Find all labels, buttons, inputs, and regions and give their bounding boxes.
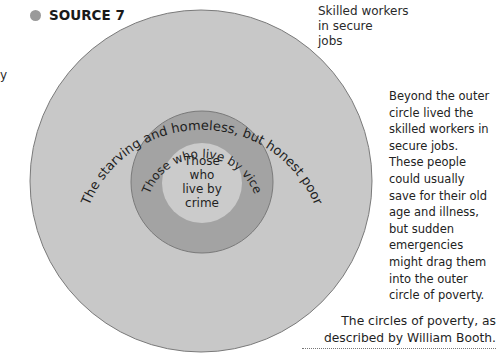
- skilled-label-line: in secure: [318, 19, 428, 34]
- description-line: emergencies: [389, 237, 499, 254]
- skilled-label-line: Skilled workers: [318, 4, 428, 19]
- description-paragraph: Beyond the outer circle lived the skille…: [389, 88, 499, 304]
- svg-text:who: who: [190, 168, 215, 182]
- description-line: secure jobs.: [389, 138, 499, 155]
- inner-circle-label: Those who live by crime: [182, 154, 222, 210]
- figure-caption: The circles of poverty, as described by …: [302, 313, 496, 349]
- description-line: age and illness,: [389, 204, 499, 221]
- description-line: These people: [389, 154, 499, 171]
- description-line: save for their old: [389, 188, 499, 205]
- description-line: circle lived the: [389, 105, 499, 122]
- description-line: skilled workers in: [389, 121, 499, 138]
- caption-line-2: described by William Booth.: [302, 330, 496, 349]
- svg-text:Those: Those: [183, 154, 220, 168]
- skilled-label-line: jobs: [318, 34, 428, 49]
- svg-text:live by: live by: [182, 182, 222, 196]
- description-line: could usually: [389, 171, 499, 188]
- description-line: but sudden: [389, 221, 499, 238]
- description-line: circle of poverty.: [389, 287, 499, 304]
- description-line: might drag them: [389, 254, 499, 271]
- svg-text:crime: crime: [185, 196, 219, 210]
- caption-line-1: The circles of poverty, as: [302, 313, 496, 330]
- skilled-workers-label: Skilled workers in secure jobs: [318, 4, 428, 49]
- description-line: into the outer: [389, 271, 499, 288]
- description-line: Beyond the outer: [389, 88, 499, 105]
